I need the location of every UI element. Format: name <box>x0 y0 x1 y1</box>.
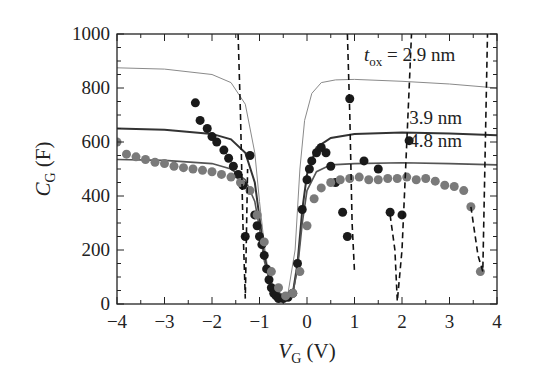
data-point <box>345 174 354 183</box>
data-point <box>402 173 411 182</box>
x-tick-label: 1 <box>350 311 360 332</box>
data-point <box>326 178 335 187</box>
data-point <box>236 178 245 187</box>
data-point <box>303 175 312 184</box>
x-tick-label: −2 <box>202 311 222 332</box>
data-point <box>141 155 150 164</box>
data-point <box>288 289 297 298</box>
data-point <box>260 251 269 260</box>
x-tick-label: 4 <box>492 311 502 332</box>
x-tick-label: 0 <box>302 311 312 332</box>
data-point <box>431 177 440 186</box>
plot-area <box>113 34 498 303</box>
data-point <box>179 163 188 172</box>
annotation: 3.9 nm <box>409 107 462 128</box>
data-point <box>421 174 430 183</box>
y-tick-label: 1000 <box>72 23 110 44</box>
data-point <box>374 175 383 184</box>
data-point <box>398 210 407 219</box>
x-tick-label: −1 <box>249 311 269 332</box>
data-point <box>393 174 402 183</box>
data-point <box>364 175 373 184</box>
data-point <box>317 183 326 192</box>
data-point <box>307 156 316 165</box>
data-point <box>326 162 335 171</box>
data-point <box>217 170 226 179</box>
data-point <box>267 267 276 276</box>
data-point <box>322 148 331 157</box>
x-tick-label: 2 <box>397 311 407 332</box>
data-point <box>122 150 131 159</box>
cv-chart: −4−3−2−10123402004006008001000VG (V)CG (… <box>0 0 533 379</box>
data-point <box>151 158 160 167</box>
data-point <box>440 181 449 190</box>
data-point <box>260 237 269 246</box>
y-tick-label: 200 <box>82 239 111 260</box>
data-point <box>208 167 217 176</box>
data-point <box>189 165 198 174</box>
x-tick-label: −3 <box>154 311 174 332</box>
data-point <box>198 166 207 175</box>
data-point <box>293 259 302 268</box>
y-tick-label: 0 <box>101 293 111 314</box>
data-point <box>253 221 262 230</box>
data-point <box>298 205 307 214</box>
data-point <box>383 174 392 183</box>
y-tick-label: 400 <box>82 185 111 206</box>
data-point <box>338 208 347 217</box>
series-dark-line <box>117 129 497 296</box>
data-point <box>265 275 274 284</box>
data-point <box>241 232 250 241</box>
y-tick-label: 600 <box>82 131 111 152</box>
data-point <box>132 152 141 161</box>
data-point <box>274 283 283 292</box>
data-point <box>450 182 459 191</box>
data-point <box>227 173 236 182</box>
data-point <box>253 210 262 219</box>
y-tick-label: 800 <box>82 77 111 98</box>
y-axis-label: CG (F) <box>31 141 58 196</box>
data-point <box>336 175 345 184</box>
data-point <box>246 151 255 160</box>
x-axis-label: VG (V) <box>278 339 335 366</box>
data-point <box>191 98 200 107</box>
series-black-dashed <box>238 34 487 301</box>
annotation: 4.8 nm <box>409 130 462 151</box>
data-point <box>412 175 421 184</box>
x-tick-label: 3 <box>445 311 455 332</box>
x-tick-label: −4 <box>107 311 128 332</box>
data-point <box>160 159 169 168</box>
data-point <box>310 194 319 203</box>
data-point <box>219 146 228 155</box>
data-point <box>355 173 364 182</box>
data-point <box>476 267 485 276</box>
data-point <box>343 232 352 241</box>
data-point <box>229 162 238 171</box>
data-point <box>459 186 468 195</box>
data-point <box>196 116 205 125</box>
data-point <box>374 165 383 174</box>
data-point <box>203 124 212 133</box>
data-point <box>303 221 312 230</box>
data-point <box>212 138 221 147</box>
data-point <box>224 154 233 163</box>
data-point <box>360 156 369 165</box>
data-point <box>170 162 179 171</box>
data-point <box>295 267 304 276</box>
data-point <box>305 165 314 174</box>
